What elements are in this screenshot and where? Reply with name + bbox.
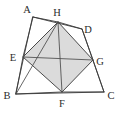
vertex-label-h: H <box>53 7 61 18</box>
vertex-label-g: G <box>96 56 104 67</box>
vertex-label-f: F <box>59 98 65 109</box>
vertex-label-b: B <box>3 90 10 101</box>
shaded-square-EHGF <box>23 22 93 92</box>
vertex-label-a: A <box>23 4 31 15</box>
geometry-figure: A H D E G B F C <box>0 0 124 115</box>
vertex-label-c: C <box>107 90 114 101</box>
figure-canvas: A H D E G B F C <box>0 0 124 115</box>
vertex-label-d: D <box>84 24 92 35</box>
vertex-label-e: E <box>10 52 16 63</box>
